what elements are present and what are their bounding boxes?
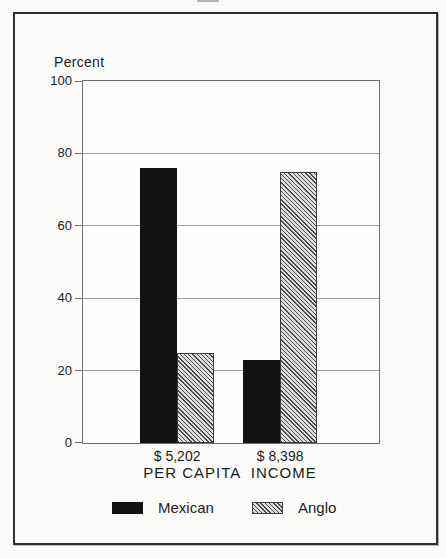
y-tick-mark-0 (75, 442, 82, 443)
y-tick-mark-60 (75, 225, 82, 226)
y-tick-label-0: 0 (42, 435, 72, 451)
anglo-swatch-icon (252, 502, 283, 514)
legend-label-anglo: Anglo (298, 499, 336, 516)
gridline-60 (83, 225, 379, 226)
scan-artifact-mark (197, 0, 219, 2)
y-tick-label-60: 60 (42, 218, 72, 234)
gridline-80 (83, 153, 379, 154)
y-tick-label-100: 100 (42, 73, 72, 89)
y-tick-label-40: 40 (42, 290, 72, 306)
y-tick-mark-100 (75, 81, 82, 82)
y-tick-mark-40 (75, 298, 82, 299)
scanned-chart-page: Percent 020406080100$ 5,202$ 8,398 PER C… (0, 0, 446, 558)
legend-item-mexican: Mexican (112, 499, 214, 516)
mexican-swatch-icon (112, 502, 143, 514)
x-category-label-2: $ 8,398 (220, 448, 340, 464)
y-tick-label-20: 20 (42, 363, 72, 379)
bar-anglo-group1 (177, 353, 214, 444)
x-category-label-1: $ 5,202 (117, 448, 237, 464)
bar-mexican-group2 (243, 360, 280, 443)
plot-area: 020406080100$ 5,202$ 8,398 (82, 80, 380, 444)
y-tick-mark-20 (75, 370, 82, 371)
y-axis-unit-label: Percent (54, 54, 104, 70)
x-axis-title: PER CAPITA INCOME (82, 464, 378, 481)
legend-label-mexican: Mexican (158, 499, 214, 516)
y-tick-label-80: 80 (42, 145, 72, 161)
bar-anglo-group2 (280, 172, 317, 444)
legend-item-anglo: Anglo (252, 499, 336, 516)
gridline-40 (83, 298, 379, 299)
legend: Mexican Anglo (0, 499, 446, 519)
bar-mexican-group1 (140, 168, 177, 443)
y-tick-mark-80 (75, 153, 82, 154)
gridline-20 (83, 370, 379, 371)
